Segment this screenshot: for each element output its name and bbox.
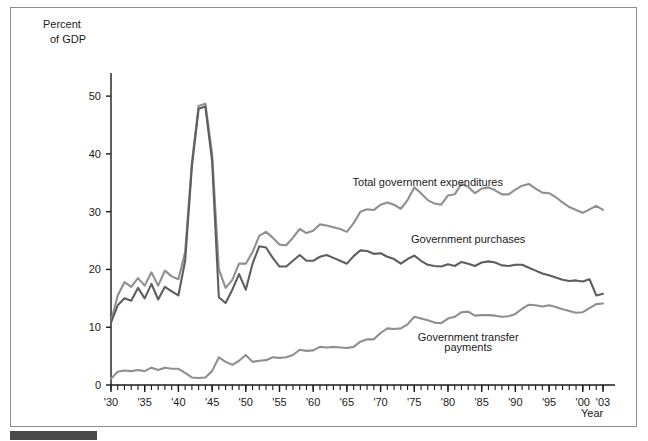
y-tick-label: 10	[89, 321, 101, 333]
x-tick-label: '55	[272, 396, 286, 408]
chart-frame: 01020304050 '30'35'40'45'50'55'60'65'70'…	[10, 7, 637, 427]
series-line-government-transfer-payments	[111, 304, 603, 379]
series-lines	[111, 104, 603, 379]
x-tick-label: '85	[475, 396, 489, 408]
x-tick-label: '50	[239, 396, 253, 408]
series-annotation: Total government expenditures	[353, 176, 504, 188]
x-tick-label: '40	[171, 396, 185, 408]
x-axis-ticks: '30'35'40'45'50'55'60'65'70'75'80'85'90'…	[104, 385, 610, 408]
x-tick-label: '35	[138, 396, 152, 408]
x-axis-title: Year	[581, 407, 604, 419]
y-tick-label: 40	[89, 148, 101, 160]
series-annotation: payments	[444, 341, 492, 353]
x-tick-label: '75	[407, 396, 421, 408]
x-tick-label: '70	[373, 396, 387, 408]
y-tick-label: 20	[89, 263, 101, 275]
y-tick-label: 0	[95, 379, 101, 391]
line-chart: 01020304050 '30'35'40'45'50'55'60'65'70'…	[11, 8, 636, 426]
series-annotation: Government purchases	[411, 233, 526, 245]
y-tick-label: 30	[89, 206, 101, 218]
y-axis-title-line1: Percent	[43, 18, 81, 30]
source-rule-bar	[10, 431, 97, 440]
y-axis-ticks: 01020304050	[89, 90, 111, 391]
y-axis-title-line2: of GDP	[50, 33, 86, 45]
x-tick-label: '30	[104, 396, 118, 408]
x-tick-label: '95	[542, 396, 556, 408]
figure-root: 01020304050 '30'35'40'45'50'55'60'65'70'…	[0, 0, 648, 441]
series-line-government-purchases	[111, 107, 603, 323]
x-tick-label: '80	[441, 396, 455, 408]
x-tick-label: '60	[306, 396, 320, 408]
series-line-total-government-expenditures	[111, 104, 603, 322]
x-tick-label: '90	[508, 396, 522, 408]
x-tick-label: '45	[205, 396, 219, 408]
y-tick-label: 50	[89, 90, 101, 102]
x-tick-label: '65	[340, 396, 354, 408]
